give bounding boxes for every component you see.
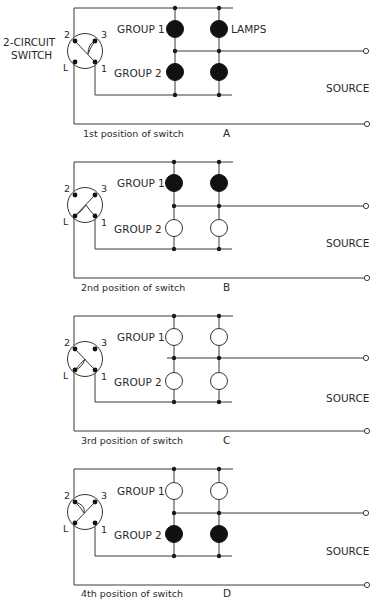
junction-node [173,49,177,53]
contact-3 [93,39,98,44]
lamp-group2-col2 [211,526,228,543]
contact-3-label: 3 [101,337,107,348]
contact-1 [93,214,98,219]
contact-1-label: 1 [101,524,107,535]
contact-L-label: L [63,370,69,381]
group2-label: GROUP 2 [114,223,162,235]
junction-node [217,49,221,53]
junction-node [172,247,176,251]
lamp-group1-col1 [166,175,183,192]
lamp-group1-col1 [166,329,183,346]
lamp-group1-col2 [211,483,228,500]
group2-label: GROUP 2 [114,376,162,388]
source-label: SOURCE [326,545,369,557]
panel-caption: 4th position of switch [81,588,183,599]
lamp-group1-col2 [211,329,228,346]
contact-2-label: 2 [64,183,70,194]
source-terminal-return [364,428,369,433]
panel-a: 2-CIRCUIT SWITCH GROUP 1 GROUP 2 LAMPS S… [3,6,370,139]
lamps-label: LAMPS [231,23,267,35]
contact-2-label: 2 [64,29,70,40]
junction-node [173,93,177,97]
contact-1-label: 1 [101,371,107,382]
junction-node [217,356,221,360]
junction-node [172,400,176,404]
contact-2-label: 2 [64,490,70,501]
junction-node [217,93,221,97]
junction-node [217,554,221,558]
contact-1-label: 1 [101,217,107,228]
panel-d: GROUP 1 GROUP 2 SOURCE 2 3 L 1 4th posit… [63,467,370,599]
junction-node [217,6,221,10]
contact-L-label: L [63,523,69,534]
lamp-group2-col2 [211,373,228,390]
contact-1 [93,60,98,65]
junction-node [217,314,221,318]
contact-L [73,521,78,526]
source-terminal-live [363,203,368,208]
junction-node [172,554,176,558]
junction-node [173,6,177,10]
panel-letter: B [223,281,230,293]
group2-label: GROUP 2 [114,529,162,541]
source-label: SOURCE [326,82,369,94]
panel-caption: 3rd position of switch [81,435,183,446]
group1-label: GROUP 1 [117,485,165,497]
contact-3-label: 3 [101,183,107,194]
contact-3 [93,500,98,505]
source-terminal-return [364,582,369,587]
lamp-group2-col1 [166,220,183,237]
contact-1 [93,521,98,526]
contact-3-label: 3 [101,29,107,40]
source-terminal-live [363,510,368,515]
contact-1-label: 1 [101,63,107,74]
contact-L-label: L [63,216,69,227]
source-terminal-live [363,48,368,53]
lamp-group2-col1 [166,526,183,543]
source-terminal-return [364,275,369,280]
contact-L-label: L [63,62,69,73]
junction-node [172,511,176,515]
junction-node [172,356,176,360]
contact-L [73,214,78,219]
contact-3 [93,193,98,198]
lamp-group2-col1 [167,64,184,81]
lamp-group1-col2 [211,175,228,192]
panel-c: GROUP 1 GROUP 2 SOURCE 2 3 L 1 3rd posit… [63,314,370,446]
group1-label: GROUP 1 [117,177,165,189]
contact-2-label: 2 [64,337,70,348]
source-label: SOURCE [326,392,369,404]
panel-letter: A [223,127,231,139]
contact-2 [73,347,78,352]
contact-3-label: 3 [101,490,107,501]
contact-2 [73,500,78,505]
group1-label: GROUP 1 [117,23,165,35]
junction-node [217,511,221,515]
lamp-group2-col2 [211,220,228,237]
lamp-group2-col1 [166,373,183,390]
contact-L [73,368,78,373]
junction-node [217,160,221,164]
source-terminal-return [364,121,369,126]
junction-node [217,247,221,251]
panel-letter: D [223,587,231,599]
junction-node [217,204,221,208]
lamp-group2-col2 [211,64,228,81]
junction-node [172,467,176,471]
junction-node [172,314,176,318]
switch-title-line2: SWITCH [11,49,52,61]
switch-title-line1: 2-CIRCUIT [3,36,56,48]
junction-node [217,467,221,471]
source-terminal-live [363,355,368,360]
contact-3 [93,347,98,352]
panel-letter: C [223,434,230,446]
group1-label: GROUP 1 [117,331,165,343]
contact-2 [73,193,78,198]
junction-node [172,204,176,208]
contact-1 [93,368,98,373]
panel-caption: 1st position of switch [83,128,184,139]
lamp-group1-col1 [167,21,184,38]
contact-L [73,60,78,65]
panel-caption: 2nd position of switch [81,282,185,293]
lamp-group1-col1 [166,483,183,500]
